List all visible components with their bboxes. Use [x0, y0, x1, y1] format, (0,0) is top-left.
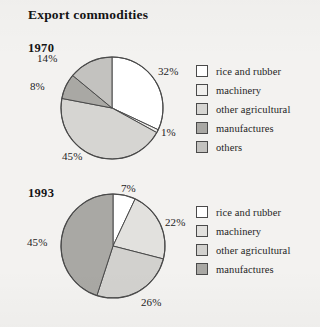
- legend-item: manufactures: [196, 119, 290, 137]
- legend-label: manufactures: [216, 264, 274, 275]
- legend-1993: rice and rubber machinery other agricult…: [196, 203, 290, 279]
- legend-label: other agricultural: [216, 104, 290, 115]
- pie-1970-label-other-agricultural: 45%: [62, 150, 82, 162]
- legend-item: machinery: [196, 81, 290, 99]
- pie-chart-1970: [60, 56, 164, 160]
- legend-swatch-machinery: [196, 84, 208, 96]
- legend-swatch-other-agricultural: [196, 103, 208, 115]
- legend-swatch-rice-and-rubber: [196, 206, 208, 218]
- legend-label: machinery: [216, 85, 261, 96]
- legend-1970: rice and rubber machinery other agricult…: [196, 62, 290, 157]
- legend-item: manufactures: [196, 260, 290, 278]
- pie-1993-label-rice-and-rubber: 7%: [121, 182, 136, 194]
- pie-1970-label-machinery: 1%: [161, 126, 176, 138]
- legend-item: other agricultural: [196, 100, 290, 118]
- legend-swatch-rice-and-rubber: [196, 65, 208, 77]
- legend-swatch-manufactures: [196, 122, 208, 134]
- legend-swatch-others: [196, 141, 208, 153]
- pie-1993-label-manufactures: 45%: [27, 236, 47, 248]
- legend-item: rice and rubber: [196, 203, 290, 221]
- chart-year-label-1993: 1993: [28, 186, 54, 201]
- legend-label: rice and rubber: [216, 66, 281, 77]
- legend-swatch-other-agricultural: [196, 244, 208, 256]
- legend-label: rice and rubber: [216, 207, 281, 218]
- legend-swatch-manufactures: [196, 263, 208, 275]
- legend-label: manufactures: [216, 123, 274, 134]
- pie-1970-label-rice-and-rubber: 32%: [158, 65, 178, 77]
- legend-label: other agricultural: [216, 245, 290, 256]
- pie-1993-label-other-agricultural: 26%: [141, 296, 161, 308]
- pie-1993-label-machinery: 22%: [165, 216, 185, 228]
- legend-swatch-machinery: [196, 225, 208, 237]
- pie-1970-label-others: 14%: [37, 52, 57, 64]
- legend-label: others: [216, 142, 242, 153]
- page-title: Export commodities: [28, 7, 148, 23]
- figure-page: Export commodities 1970 14% 32% 1% 45% 8…: [0, 0, 320, 327]
- legend-item: machinery: [196, 222, 290, 240]
- pie-chart-1993: [60, 193, 166, 299]
- legend-label: machinery: [216, 226, 261, 237]
- legend-item: others: [196, 138, 290, 156]
- legend-item: other agricultural: [196, 241, 290, 259]
- legend-item: rice and rubber: [196, 62, 290, 80]
- pie-1970-label-manufactures: 8%: [30, 80, 45, 92]
